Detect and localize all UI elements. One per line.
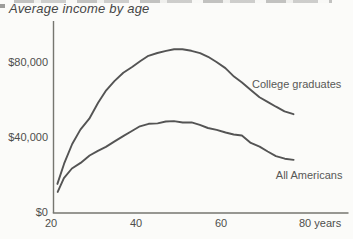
scan-artifact-top (14, 0, 332, 3)
scan-artifact-dot (0, 4, 5, 8)
series-line-all-americans (58, 121, 294, 192)
x-tick-label: 20 (45, 217, 57, 229)
x-tick-label: 80 years (299, 217, 342, 229)
series-label: College graduates (252, 78, 342, 90)
chart-title: Average income by age (9, 1, 150, 16)
x-tick-label: 40 (130, 217, 142, 229)
series-label: All Americans (276, 169, 343, 181)
y-tick-label: $80,000 (8, 56, 48, 68)
series-line-college-graduates (57, 49, 293, 184)
x-tick-label: 60 (215, 217, 227, 229)
income-by-age-line-chart: $0$40,000$80,00020406080 yearsCollege gr… (0, 0, 353, 239)
y-tick-label: $40,000 (8, 131, 48, 143)
chart-figure: Average income by age $0$40,000$80,00020… (0, 0, 353, 239)
